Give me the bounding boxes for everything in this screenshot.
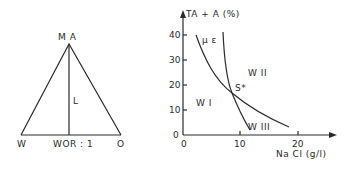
y-tick-30: 30	[169, 55, 181, 65]
l-label: L	[73, 96, 79, 106]
region-w2-label: W II	[248, 68, 267, 78]
figure: M A W O WOR : 1 L 40 30 20 10 0 0 10 20	[0, 0, 357, 169]
y-ticks	[183, 35, 187, 110]
curve-mu-epsilon	[196, 35, 289, 127]
apex-label: M A	[58, 32, 77, 42]
w-corner-label: W	[17, 139, 26, 149]
mu-epsilon-label: μ ε	[202, 35, 217, 45]
y-tick-20: 20	[169, 80, 181, 90]
y-tick-0: 0	[173, 130, 179, 140]
wor-label: WOR : 1	[53, 139, 93, 149]
y-tick-40: 40	[169, 30, 181, 40]
x-tick-0: 0	[181, 139, 187, 149]
y-axis-label: TA + A (%)	[185, 9, 240, 19]
ternary-triangle: M A W O WOR : 1 L	[17, 32, 125, 149]
x-axis-label: Na Cl (g/l)	[276, 149, 327, 159]
triangle-sides	[21, 44, 121, 135]
x-tick-20: 20	[292, 139, 304, 149]
curve-steep-boundary	[223, 32, 250, 130]
region-w1-label: W I	[196, 98, 212, 108]
o-corner-label: O	[117, 139, 125, 149]
x-tick-10: 10	[234, 139, 246, 149]
point-s-star-label: S*	[235, 83, 246, 93]
y-tick-10: 10	[169, 105, 181, 115]
phase-chart: 40 30 20 10 0 0 10 20 TA + A (%) Na Cl (…	[169, 9, 337, 159]
x-axis-arrow-icon	[329, 132, 337, 138]
region-w3-label: W III	[248, 122, 270, 132]
